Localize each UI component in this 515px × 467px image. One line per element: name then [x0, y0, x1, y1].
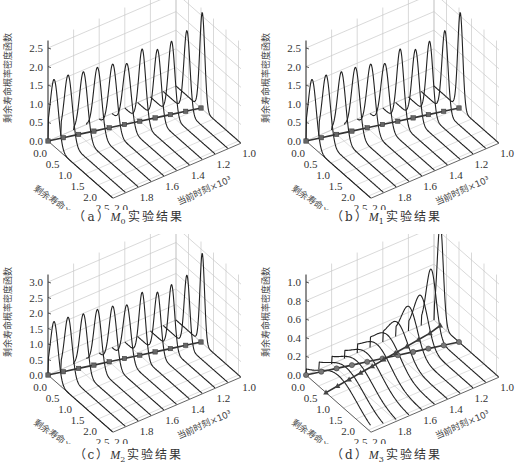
plot-b-3d-waterfall: 0.00.51.01.52.02.5剩余寿命概率密度函数0.00.51.01.5… — [258, 0, 515, 210]
svg-text:1.4: 1.4 — [449, 403, 463, 415]
svg-text:2.0: 2.0 — [287, 61, 301, 73]
svg-text:1.2: 1.2 — [475, 158, 489, 170]
svg-text:1.5: 1.5 — [287, 79, 301, 91]
svg-text:1.0: 1.0 — [29, 338, 43, 350]
svg-text:0.0: 0.0 — [29, 369, 43, 381]
z-axis-label: 剩余寿命概率密度函数 — [2, 33, 13, 123]
svg-text:2.5: 2.5 — [29, 42, 43, 54]
pdf-curves — [48, 254, 241, 432]
model-symbol: M — [110, 448, 120, 462]
z-axis-label: 剩余寿命概率密度函数 — [2, 267, 13, 357]
caption-text: 实验结果 — [128, 210, 184, 224]
svg-text:2.0: 2.0 — [114, 436, 128, 444]
svg-text:1.5: 1.5 — [29, 323, 43, 335]
model-symbol: M — [369, 448, 379, 462]
svg-text:0.2: 0.2 — [287, 350, 301, 362]
svg-text:1.8: 1.8 — [398, 425, 412, 437]
svg-text:1.0: 1.0 — [500, 147, 514, 159]
svg-text:0.5: 0.5 — [29, 354, 43, 366]
svg-text:1.8: 1.8 — [140, 425, 154, 437]
svg-text:1.4: 1.4 — [449, 169, 463, 181]
svg-text:0.0: 0.0 — [287, 369, 301, 381]
svg-text:0.0: 0.0 — [29, 135, 43, 147]
svg-text:1.6: 1.6 — [165, 414, 179, 426]
svg-text:2.0: 2.0 — [29, 61, 43, 73]
x-axis-ticks: 0.00.51.01.52.02.5 — [33, 147, 110, 210]
model-subscript: 1 — [379, 217, 386, 226]
x-axis-ticks: 0.00.51.01.52.02.5 — [291, 147, 368, 210]
svg-text:1.6: 1.6 — [423, 414, 437, 426]
caption-c: （c）M2实验结果 — [0, 445, 257, 464]
panel-a: 0.00.51.01.52.02.5剩余寿命概率密度函数0.00.51.01.5… — [0, 0, 257, 233]
caption-b: （b）M1实验结果 — [258, 207, 515, 226]
svg-text:3.0: 3.0 — [29, 276, 43, 288]
caption-text: 实验结果 — [386, 448, 442, 462]
svg-text:1.4: 1.4 — [191, 169, 205, 181]
svg-text:1.0: 1.0 — [242, 381, 256, 393]
model-subscript: 3 — [379, 455, 386, 464]
svg-text:0.6: 0.6 — [287, 313, 301, 325]
panel-b: 0.00.51.01.52.02.5剩余寿命概率密度函数0.00.51.01.5… — [258, 0, 515, 233]
plot-a-3d-waterfall: 0.00.51.01.52.02.5剩余寿命概率密度函数0.00.51.01.5… — [0, 0, 257, 210]
svg-text:0.5: 0.5 — [287, 116, 301, 128]
caption-label: （a） — [73, 210, 110, 224]
svg-text:1.2: 1.2 — [217, 158, 231, 170]
svg-text:0.4: 0.4 — [287, 332, 301, 344]
model-symbol: M — [111, 210, 121, 224]
caption-d: （d）M3实验结果 — [258, 445, 515, 464]
svg-text:1.5: 1.5 — [29, 79, 43, 91]
model-symbol: M — [369, 210, 379, 224]
svg-text:0.5: 0.5 — [29, 116, 43, 128]
svg-text:1.2: 1.2 — [475, 392, 489, 404]
svg-text:2.0: 2.0 — [29, 307, 43, 319]
svg-text:1.6: 1.6 — [423, 180, 437, 192]
caption-text: 实验结果 — [386, 210, 442, 224]
svg-text:1.2: 1.2 — [217, 392, 231, 404]
pdf-curves — [306, 234, 499, 425]
svg-text:1.0: 1.0 — [242, 147, 256, 159]
panel-c: 0.00.51.01.52.02.53.0剩余寿命概率密度函数0.00.51.0… — [0, 234, 257, 467]
svg-text:1.8: 1.8 — [140, 191, 154, 203]
pdf-curves — [48, 13, 241, 198]
caption-a: （a）M0实验结果 — [0, 207, 257, 226]
svg-text:2.0: 2.0 — [372, 436, 386, 444]
x-axis-ticks: 0.00.51.01.52.02.5 — [33, 381, 110, 444]
svg-text:2.5: 2.5 — [96, 436, 110, 444]
caption-text: 实验结果 — [127, 448, 183, 462]
svg-text:2.5: 2.5 — [354, 436, 368, 444]
z-axis-label: 剩余寿命概率密度函数 — [260, 33, 271, 123]
svg-text:1.8: 1.8 — [398, 191, 412, 203]
z-axis-label: 剩余寿命概率密度函数 — [260, 267, 271, 357]
plot-c-3d-waterfall: 0.00.51.01.52.02.53.0剩余寿命概率密度函数0.00.51.0… — [0, 234, 257, 444]
svg-text:2.5: 2.5 — [287, 42, 301, 54]
svg-text:2.5: 2.5 — [29, 292, 43, 304]
svg-text:0.8: 0.8 — [287, 295, 301, 307]
svg-text:1.6: 1.6 — [165, 180, 179, 192]
model-subscript: 0 — [121, 217, 128, 226]
svg-text:1.0: 1.0 — [500, 381, 514, 393]
caption-label: （c） — [74, 448, 111, 462]
svg-text:0.0: 0.0 — [287, 135, 301, 147]
svg-text:1.0: 1.0 — [29, 98, 43, 110]
caption-label: （b） — [331, 210, 369, 224]
svg-text:1.0: 1.0 — [287, 98, 301, 110]
svg-text:1.0: 1.0 — [287, 276, 301, 288]
panel-d: 0.00.20.40.60.81.0剩余寿命概率密度函数0.00.51.01.5… — [258, 234, 515, 467]
caption-label: （d） — [331, 448, 369, 462]
svg-text:1.4: 1.4 — [191, 403, 205, 415]
pdf-curves — [306, 13, 499, 198]
plot-d-3d-waterfall: 0.00.20.40.60.81.0剩余寿命概率密度函数0.00.51.01.5… — [258, 234, 515, 444]
